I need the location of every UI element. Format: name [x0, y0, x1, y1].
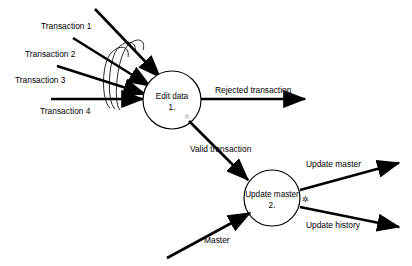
label-transaction-2: Transaction 2: [25, 49, 76, 59]
label-transaction-3: Transaction 3: [15, 75, 66, 85]
process-update-master-number: 2.: [269, 201, 276, 210]
label-update-master-output: Update master: [306, 159, 361, 169]
label-master: Master: [204, 235, 230, 245]
process-edit-data-number: 1.: [169, 103, 176, 112]
process-update-master-name: Update master: [245, 190, 299, 199]
transaction-3-arrow: [57, 66, 145, 94]
label-transaction-4: Transaction 4: [40, 106, 91, 116]
data-flow-diagram: Edit data 1. ✲ Update master 2. ✲ Transa…: [0, 0, 412, 266]
label-transaction-1: Transaction 1: [41, 21, 92, 31]
diagram-canvas: Edit data 1. ✲ Update master 2. ✲ Transa…: [0, 0, 412, 266]
label-update-history-output: Update history: [306, 220, 361, 230]
update-master-asterisk-icon: ✲: [302, 195, 309, 204]
edit-data-asterisk-icon: ✲: [184, 113, 190, 120]
label-rejected-transaction: Rejected transaction: [215, 85, 292, 95]
process-edit-data-name: Edit data: [156, 92, 189, 101]
label-valid-transaction: Valid transaction: [190, 144, 252, 154]
